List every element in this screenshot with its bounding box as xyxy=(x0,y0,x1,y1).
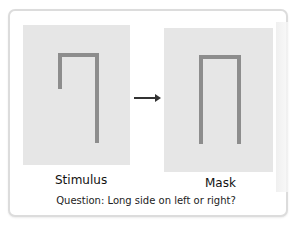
right-arrow-icon xyxy=(134,97,156,99)
arrow-head-icon xyxy=(155,94,161,102)
stimulus-label: Stimulus xyxy=(55,173,107,187)
stimulus-top-bar xyxy=(58,53,99,57)
mask-right-side xyxy=(237,55,241,144)
background-page-edge xyxy=(276,22,288,192)
mask-left-side xyxy=(199,55,203,144)
stimulus-short-left-side xyxy=(58,53,62,89)
stimulus-panel xyxy=(23,25,130,165)
mask-label: Mask xyxy=(205,176,236,190)
question-text: Question: Long side on left or right? xyxy=(0,195,292,206)
mask-top-bar xyxy=(199,55,241,59)
mask-panel xyxy=(164,28,273,172)
stimulus-long-right-side xyxy=(95,53,99,143)
